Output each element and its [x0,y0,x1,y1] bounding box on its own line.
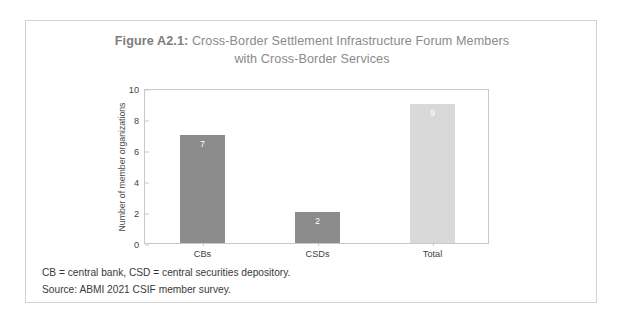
y-tick-label: 10 [129,85,145,95]
x-tick-label-total: Total [423,249,442,259]
y-tick-mark [145,214,149,215]
y-axis-title: Number of member organizations [114,89,130,244]
y-axis-title-text: Number of member organizations [117,102,127,231]
y-tick-label: 6 [134,147,145,157]
x-tick-mark [203,243,204,246]
bar-csds: 2 [295,212,340,243]
y-tick-label: 8 [134,116,145,126]
y-tick-label: 0 [134,240,145,250]
x-tick-label-cbs: CBs [194,249,211,259]
x-tick-mark [433,243,434,246]
y-tick-mark [145,183,149,184]
bar-value-label: 2 [295,216,340,226]
bar-total: 9 [410,104,455,244]
footnote-definitions: CB = central bank, CSD = central securit… [42,264,582,281]
bar-value-label: 7 [180,139,225,149]
x-tick-label-csds: CSDs [306,249,330,259]
footnote-source: Source: ABMI 2021 CSIF member survey. [42,281,582,298]
y-tick-label: 2 [134,209,145,219]
x-tick-mark [318,243,319,246]
bar-cbs: 7 [180,135,225,244]
figure-container: Figure A2.1: Cross-Border Settlement Inf… [25,20,597,303]
chart-plot-wrapper: Number of member organizations 0246810 7… [26,21,598,304]
bar-value-label: 9 [410,108,455,118]
y-tick-mark [145,245,149,246]
y-tick-mark [145,90,149,91]
plot-area: 0246810 729 CBsCSDsTotal [144,89,489,244]
figure-footnotes: CB = central bank, CSD = central securit… [42,264,582,298]
y-tick-mark [145,152,149,153]
y-tick-label: 4 [134,178,145,188]
y-tick-mark [145,121,149,122]
